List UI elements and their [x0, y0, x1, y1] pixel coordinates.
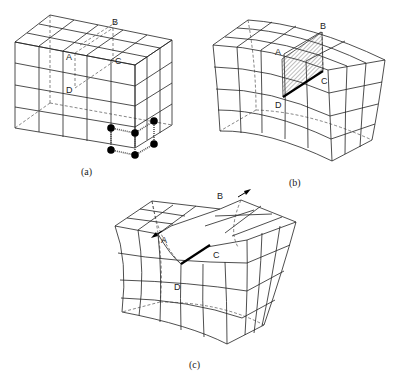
panel-c-displacement-arrow-right	[238, 189, 251, 197]
panel-c: B A C D (c)	[115, 189, 296, 371]
label-b-D: D	[275, 100, 282, 110]
panel-b-lattice	[213, 20, 385, 161]
panel-b-hatched-plane	[282, 32, 323, 97]
atom	[131, 151, 139, 159]
label-a-B: B	[112, 17, 118, 27]
atom	[150, 117, 158, 125]
label-c-D: D	[174, 282, 181, 292]
panel-a: B A C D (a)	[15, 15, 172, 178]
atom	[131, 129, 139, 137]
atom	[107, 146, 115, 154]
caption-c: (c)	[189, 359, 200, 371]
label-c-C: C	[213, 250, 220, 260]
caption-b: (b)	[289, 177, 301, 189]
atom	[150, 140, 158, 148]
label-c-B: B	[217, 191, 223, 201]
label-a-A: A	[66, 52, 72, 62]
label-b-C: C	[321, 76, 328, 86]
atom	[107, 124, 115, 132]
label-b-A: A	[275, 47, 281, 57]
caption-a: (a)	[81, 166, 92, 178]
label-a-C: C	[115, 56, 122, 66]
label-a-D: D	[66, 85, 73, 95]
panel-c-lattice	[115, 200, 296, 344]
dislocation-figure: B A C D (a)	[0, 0, 393, 377]
panel-b: B A C D (b)	[213, 20, 385, 189]
label-b-B: B	[320, 21, 326, 31]
label-c-A: A	[161, 235, 167, 245]
panel-a-lattice	[15, 15, 172, 148]
